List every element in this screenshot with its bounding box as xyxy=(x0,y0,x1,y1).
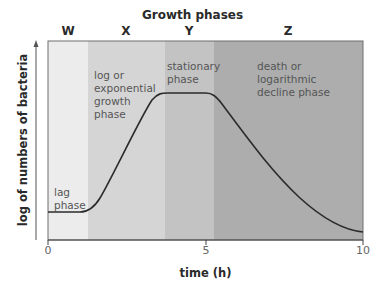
y-axis-title: log of numbers of bacteria xyxy=(16,40,30,240)
lag-phase-label: lag phase xyxy=(54,186,86,212)
stationary-label-line: stationary xyxy=(167,60,220,73)
x-tick-label-5: 5 xyxy=(203,244,210,257)
death-phase-label: death or logarithmic decline phase xyxy=(257,60,330,99)
log-label-line: phase xyxy=(94,108,156,121)
y-axis-arrow-icon xyxy=(34,40,39,47)
log-label-line: growth xyxy=(94,95,156,108)
plot-area xyxy=(0,0,385,285)
lag-label-line: lag xyxy=(54,186,86,199)
x-axis-title: time (h) xyxy=(0,266,385,280)
lag-label-line: phase xyxy=(54,199,86,212)
log-phase-label: log or exponential growth phase xyxy=(94,69,156,121)
death-label-line: decline phase xyxy=(257,86,330,99)
stationary-phase-label: stationary phase xyxy=(167,60,220,86)
stationary-label-line: phase xyxy=(167,73,220,86)
log-label-line: log or xyxy=(94,69,156,82)
death-label-line: death or xyxy=(257,60,330,73)
log-label-line: exponential xyxy=(94,82,156,95)
death-label-line: logarithmic xyxy=(257,73,330,86)
x-tick-label-0: 0 xyxy=(45,244,52,257)
x-tick-label-10: 10 xyxy=(356,244,370,257)
